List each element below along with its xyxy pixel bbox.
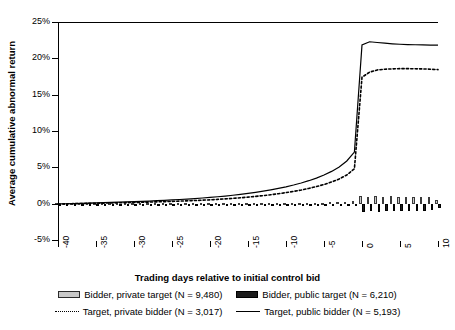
zero-baseline <box>58 22 438 23</box>
y-axis-tick <box>52 58 59 59</box>
x-axis-tick <box>134 241 135 247</box>
x-axis-tick-label: -10 <box>290 236 299 248</box>
legend-swatch-line-dotted-icon <box>55 311 79 312</box>
x-axis-tick <box>96 241 97 247</box>
x-axis-tick <box>172 241 173 247</box>
x-axis-tick <box>400 241 401 247</box>
x-axis-tick-labels: -40-35-30-25-20-15-10-50510 <box>0 248 455 274</box>
line-target-public-bidder <box>58 42 438 204</box>
x-axis-tick-label: -25 <box>176 236 185 248</box>
chart-legend: Bidder, private target (N = 9,480)Bidder… <box>0 286 455 328</box>
legend-item-label: Target, public bidder (N = 5,193) <box>264 306 400 317</box>
bar-bidder-public-target <box>438 204 441 208</box>
legend-row-top: Bidder, private target (N = 9,480)Bidder… <box>0 286 455 302</box>
line-target-private-bidder <box>58 69 438 204</box>
lines-layer <box>58 22 438 240</box>
plot-area <box>58 22 438 240</box>
x-axis-tick <box>248 241 249 247</box>
x-axis-tick-label: -15 <box>252 236 261 248</box>
x-axis-tick-label: 0 <box>366 243 375 248</box>
y-axis-tick <box>52 22 59 23</box>
x-axis-title: Trading days relative to initial control… <box>0 272 455 283</box>
legend-row-bottom: Target, private bidder (N = 3,017)Target… <box>0 303 455 319</box>
legend-item-label: Target, private bidder (N = 3,017) <box>83 306 223 317</box>
x-axis-tick-label: 10 <box>442 239 451 248</box>
x-axis-tick-label: -30 <box>138 236 147 248</box>
y-axis-tick <box>52 167 59 168</box>
x-axis-tick-label: -20 <box>214 236 223 248</box>
legend-item-label: Bidder, private target (N = 9,480) <box>84 289 222 300</box>
x-axis-tick <box>286 241 287 247</box>
y-axis-tick <box>52 240 59 241</box>
y-axis-tick <box>52 131 59 132</box>
chart-figure: -5%0%5%10%15%20%25% Average cumulative a… <box>0 0 455 330</box>
legend-swatch-public-bar-icon <box>236 291 258 298</box>
legend-swatch-private-bar-icon <box>58 291 80 298</box>
legend-item: Bidder, public target (N = 6,210) <box>236 289 396 300</box>
legend-item: Target, private bidder (N = 3,017) <box>55 306 223 317</box>
legend-item-label: Bidder, public target (N = 6,210) <box>262 289 396 300</box>
y-axis-tick-label: -5% <box>2 235 50 244</box>
x-axis-tick-label: -35 <box>100 236 109 248</box>
x-axis-tick-label: -40 <box>62 236 71 248</box>
x-axis-tick-label: -5 <box>328 240 337 248</box>
x-axis-tick <box>438 241 439 247</box>
x-axis-tick-label: 5 <box>404 243 413 248</box>
legend-item: Bidder, private target (N = 9,480) <box>58 289 222 300</box>
y-axis-title: Average cumulative abnormal return <box>6 19 17 229</box>
legend-item: Target, public bidder (N = 5,193) <box>236 306 400 317</box>
x-axis-tick <box>362 241 363 247</box>
x-axis-tick <box>324 241 325 247</box>
y-axis-tick <box>52 95 59 96</box>
x-axis-tick <box>58 241 59 247</box>
y-axis-tick <box>52 204 59 205</box>
legend-swatch-line-solid-icon <box>236 311 260 312</box>
x-axis-tick <box>210 241 211 247</box>
